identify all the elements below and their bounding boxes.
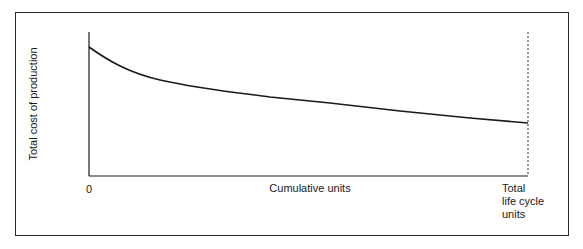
x-axis-origin-label: 0 xyxy=(86,183,92,195)
x-axis-label: Cumulative units xyxy=(269,182,350,194)
total-cost-curve xyxy=(89,47,528,123)
chart-plot-area xyxy=(0,0,583,249)
life-cycle-end-label: Total life cycle units xyxy=(502,182,544,221)
y-axis-label: Total cost of production xyxy=(27,47,39,160)
